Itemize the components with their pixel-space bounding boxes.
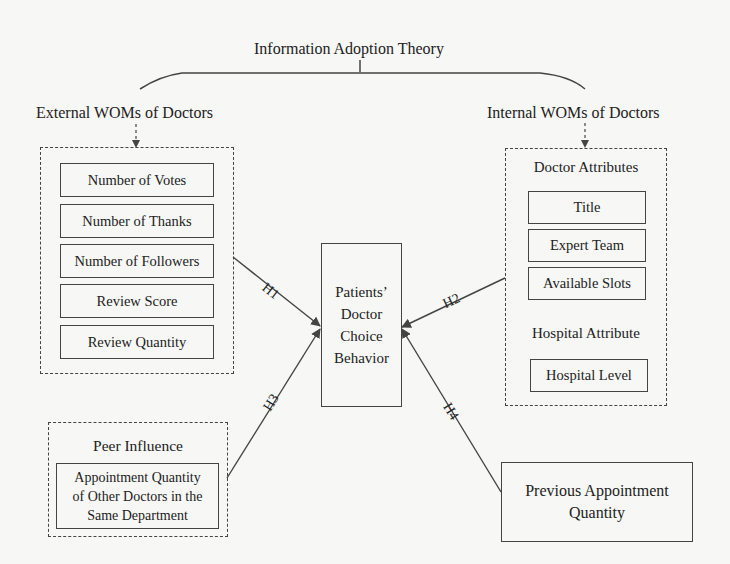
item-number-of-votes: Number of Votes (60, 163, 214, 197)
internal-wom-title: Internal WOMs of Doctors (487, 104, 660, 122)
theory-brace (140, 60, 585, 89)
theory-title: Information Adoption Theory (254, 40, 444, 58)
item-title: Title (528, 191, 646, 224)
previous-appointment-box: Previous Appointment Quantity (501, 462, 693, 542)
external-wom-group: Number of Votes Number of Thanks Number … (40, 147, 234, 374)
item-number-of-thanks: Number of Thanks (60, 204, 214, 238)
peer-item-line: of Other Doctors in the (73, 487, 203, 506)
h2-label: H2 (441, 290, 463, 311)
outcome-box: Patients’ Doctor Choice Behavior (321, 243, 402, 407)
internal-connector-arrow-icon (581, 140, 589, 148)
item-review-score: Review Score (60, 284, 214, 318)
item-available-slots: Available Slots (528, 267, 646, 300)
previous-line: Previous Appointment (525, 480, 669, 502)
h4-label: H4 (440, 400, 462, 422)
item-review-quantity: Review Quantity (60, 325, 214, 359)
doctor-attributes-title: Doctor Attributes (506, 159, 666, 176)
outcome-line: Choice (340, 325, 383, 347)
item-hospital-level: Hospital Level (530, 359, 648, 392)
internal-wom-group: Doctor Attributes Title Expert Team Avai… (505, 148, 667, 406)
hospital-attribute-title: Hospital Attribute (506, 325, 666, 342)
outcome-line: Behavior (334, 347, 389, 369)
peer-influence-group: Peer Influence Appointment Quantity of O… (48, 422, 228, 537)
peer-item-line: Appointment Quantity (74, 468, 200, 487)
item-number-of-followers: Number of Followers (60, 244, 214, 278)
outcome-line: Patients’ (335, 281, 388, 303)
item-expert-team: Expert Team (528, 229, 646, 262)
peer-influence-title: Peer Influence (49, 437, 227, 455)
item-peer-appointment-quantity: Appointment Quantity of Other Doctors in… (56, 463, 219, 529)
h1-label: H1 (259, 280, 282, 302)
external-wom-title: External WOMs of Doctors (36, 104, 213, 122)
previous-line: Quantity (569, 502, 625, 524)
peer-item-line: Same Department (87, 506, 188, 525)
outcome-line: Doctor (341, 303, 383, 325)
